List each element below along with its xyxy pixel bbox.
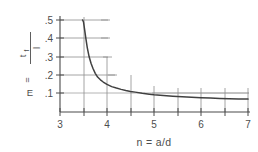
gridline-end-stubs [101,20,117,75]
xtick-label-7: 7 [245,119,251,130]
chart-svg: E = t f l [0,0,258,152]
y-axis-label-numerator-subscript: f [23,49,30,51]
xtick-label-5: 5 [151,119,157,130]
y-axis-label-equals: = [21,77,32,83]
xtick-label-4: 4 [104,119,110,130]
y-axis-label-lhs: E [27,87,33,98]
x-axis-label: n = a/d [136,136,171,148]
y-axis-tick-labels: .5 .4 .3 .2 .1 [45,15,54,99]
chart-figure: E = t f l [0,0,258,152]
xtick-label-6: 6 [198,119,204,130]
y-axis-label-denominator: l [31,47,42,49]
vertical-gridlines [84,17,248,112]
xtick-label-3: 3 [57,119,63,130]
ytick-label-0.1: .1 [45,88,54,99]
y-axis-label-numerator: t [17,54,28,57]
x-axis-tick-labels: 3 4 5 6 7 [57,119,251,130]
ytick-label-0.2: .2 [45,70,54,81]
ytick-label-0.3: .3 [45,52,54,63]
y-axis-label-group: E = t f l [17,32,42,98]
y-axis-label-fraction: t f l [17,32,42,64]
ytick-label-0.5: .5 [45,15,54,26]
ytick-label-0.4: .4 [45,33,54,44]
